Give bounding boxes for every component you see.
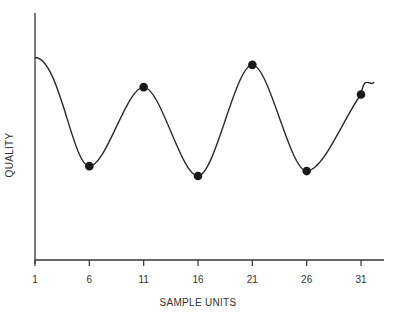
data-point-marker bbox=[357, 90, 366, 99]
y-axis-title: QUALITY bbox=[4, 133, 15, 178]
data-point-marker bbox=[139, 83, 148, 92]
data-point-marker bbox=[302, 167, 311, 176]
x-tick-label: 11 bbox=[138, 274, 149, 285]
x-axis-title: SAMPLE UNITS bbox=[160, 297, 237, 308]
x-tick-label: 6 bbox=[87, 274, 93, 285]
x-tick-label: 21 bbox=[247, 274, 259, 285]
data-point-marker bbox=[85, 162, 94, 171]
x-tick-label: 16 bbox=[192, 274, 204, 285]
data-point-marker bbox=[248, 61, 257, 70]
x-tick-label: 26 bbox=[301, 274, 313, 285]
x-tick-label: 1 bbox=[32, 274, 38, 285]
x-ticks: 161116212631 bbox=[32, 260, 367, 285]
chart: 161116212631 QUALITY SAMPLE UNITS bbox=[0, 0, 397, 319]
quality-curve bbox=[35, 57, 374, 176]
x-tick-label: 31 bbox=[355, 274, 367, 285]
data-point-marker bbox=[194, 172, 203, 181]
x-axis: 161116212631 bbox=[32, 260, 384, 285]
